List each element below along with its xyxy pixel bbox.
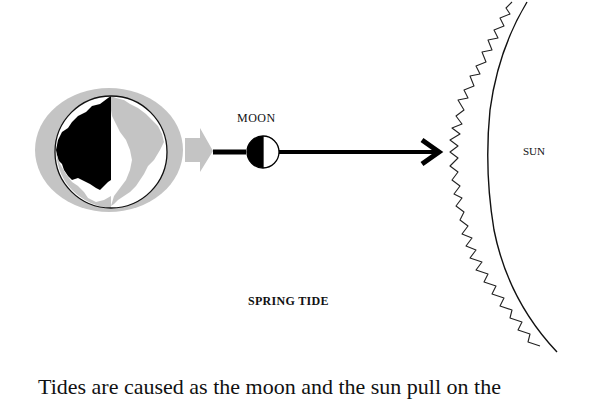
- tidal-force-arrow: [185, 128, 213, 172]
- moon-label: MOON: [237, 111, 276, 126]
- sun-label: SUN: [523, 145, 545, 157]
- sun: [450, 2, 557, 352]
- earth: [35, 88, 183, 212]
- sun-surface-edge: [488, 2, 557, 352]
- moon: [247, 136, 279, 168]
- diagram-title: SPRING TIDE: [248, 294, 329, 309]
- sun-corona: [450, 2, 540, 346]
- caption-text: Tides are caused as the moon and the sun…: [38, 374, 501, 400]
- moon-dark-half: [247, 136, 263, 168]
